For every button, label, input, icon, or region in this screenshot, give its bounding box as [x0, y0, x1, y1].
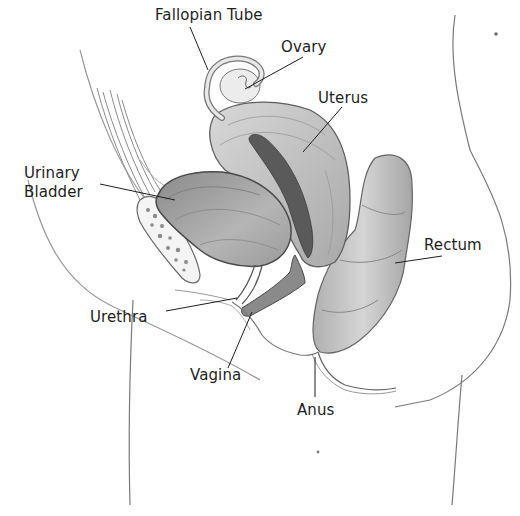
- pelvic-illustration: [0, 0, 520, 516]
- label-fallopian-tube: Fallopian Tube: [155, 6, 263, 24]
- label-urinary-bladder-line2: Bladder: [24, 183, 83, 201]
- label-vagina: Vagina: [190, 366, 241, 384]
- anatomy-diagram: Fallopian Tube Ovary Uterus Urinary Blad…: [0, 0, 520, 516]
- label-ovary: Ovary: [281, 38, 326, 56]
- label-uterus: Uterus: [318, 89, 368, 107]
- label-urinary-bladder-line1: Urinary: [24, 164, 80, 182]
- label-rectum: Rectum: [424, 236, 482, 254]
- label-anus: Anus: [297, 401, 335, 419]
- label-urethra: Urethra: [90, 308, 148, 326]
